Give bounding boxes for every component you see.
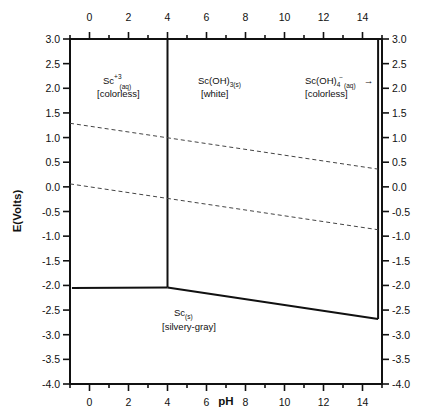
y-tick-label-right: -1.0: [392, 230, 410, 242]
x-tick-label-bottom: 14: [357, 396, 369, 408]
y-tick-label-left: 0.5: [45, 156, 60, 168]
y-tick-label-left: 2.5: [45, 58, 60, 70]
y-tick-label-left: 3.0: [45, 33, 60, 45]
x-tick-label-bottom: 2: [126, 396, 132, 408]
svg-text:[silvery-gray]: [silvery-gray]: [162, 321, 216, 332]
y-tick-label-left: -4.0: [42, 378, 60, 390]
y-tick-label-right: 1.0: [392, 132, 407, 144]
x-tick-label-bottom: 6: [204, 396, 210, 408]
y-tick-label-left: -3.0: [42, 329, 60, 341]
svg-text:[white]: [white]: [201, 88, 228, 99]
y-tick-label-right: 0.5: [392, 156, 407, 168]
y-tick-label-right: 2.0: [392, 82, 407, 94]
x-tick-label-bottom: 0: [87, 396, 93, 408]
x-tick-label-top: 0: [87, 11, 93, 23]
y-tick-label-right: -4.0: [392, 378, 410, 390]
y-tick-label-left: 2.0: [45, 82, 60, 94]
x-tick-label-top: 4: [165, 11, 171, 23]
y-tick-label-right: 1.5: [392, 107, 407, 119]
y-tick-label-right: -3.5: [392, 353, 410, 365]
x-tick-label-top: 14: [357, 11, 369, 23]
y-tick-label-left: 1.0: [45, 132, 60, 144]
y-tick-label-right: -2.5: [392, 304, 410, 316]
y-tick-label-right: -1.5: [392, 255, 410, 267]
x-tick-label-top: 6: [204, 11, 210, 23]
x-tick-label-bottom: 4: [165, 396, 171, 408]
svg-text:[colorless]: [colorless]: [97, 88, 140, 99]
y-tick-label-left: -2.5: [42, 304, 60, 316]
x-tick-label-top: 10: [279, 11, 291, 23]
y-tick-label-right: 2.5: [392, 58, 407, 70]
x-axis-label: pH: [218, 395, 233, 407]
y-tick-label-left: 0.0: [45, 181, 60, 193]
y-tick-label-right: -3.0: [392, 329, 410, 341]
x-tick-label-top: 12: [318, 11, 330, 23]
x-tick-label-bottom: 8: [243, 396, 249, 408]
y-tick-label-left: -2.0: [42, 279, 60, 291]
y-tick-label-right: 0.0: [392, 181, 407, 193]
y-tick-label-left: 1.5: [45, 107, 60, 119]
y-axis-label: E(Volts): [11, 190, 23, 233]
y-tick-label-right: -0.5: [392, 206, 410, 218]
x-tick-label-bottom: 10: [279, 396, 291, 408]
y-tick-label-left: -1.5: [42, 255, 60, 267]
y-tick-label-right: 3.0: [392, 33, 407, 45]
svg-text:[colorless]: [colorless]: [305, 88, 348, 99]
x-tick-label-top: 8: [243, 11, 249, 23]
y-tick-label-right: -2.0: [392, 279, 410, 291]
x-tick-label-top: 2: [126, 11, 132, 23]
y-tick-label-left: -3.5: [42, 353, 60, 365]
y-tick-label-left: -0.5: [42, 206, 60, 218]
x-tick-label-bottom: 12: [318, 396, 330, 408]
pourbaix-diagram: 00224466881010121214143.03.02.52.52.02.0…: [0, 0, 428, 414]
y-tick-label-left: -1.0: [42, 230, 60, 242]
